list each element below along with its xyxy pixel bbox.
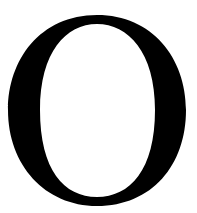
letter-o-glyph: O (0, 0, 197, 213)
letter-o-shape (0, 0, 197, 213)
